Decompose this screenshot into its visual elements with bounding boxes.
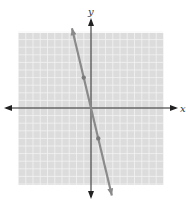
y-axis-bottom-arrow-icon (88, 191, 94, 199)
data-point (96, 136, 100, 140)
y-axis-top-arrow-icon (88, 18, 94, 26)
data-point (82, 75, 86, 79)
x-axis-right-arrow-icon (170, 105, 178, 111)
y-axis-label: y (87, 6, 94, 17)
coordinate-plane: x y (0, 0, 186, 206)
x-axis-left-arrow-icon (4, 105, 12, 111)
x-axis-label: x (180, 103, 186, 114)
